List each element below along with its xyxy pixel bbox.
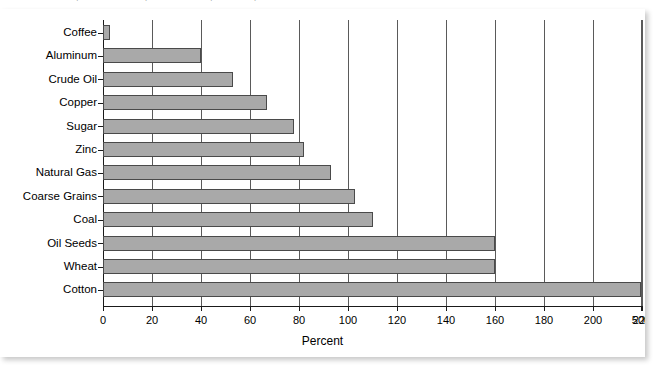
bar — [103, 259, 495, 274]
y-axis-category-label: Zinc — [75, 143, 97, 155]
y-axis-tick — [98, 79, 103, 80]
plot-area: CoffeeAluminumCrude OilCopperSugarZincNa… — [0, 9, 645, 357]
x-axis-tick — [544, 306, 545, 311]
x-axis-tick-label: 20 — [146, 314, 158, 326]
bar — [103, 189, 355, 204]
x-axis-tick-label: 200 — [584, 314, 602, 326]
bar — [103, 142, 304, 157]
y-axis-tick — [98, 196, 103, 197]
y-axis-category-label: Coffee — [63, 26, 97, 38]
y-axis-category-label: Coal — [73, 213, 97, 225]
figure-caption-strip: of which production located in particula… — [0, 0, 653, 9]
gridline — [544, 20, 545, 306]
y-axis-category-label: Crude Oil — [48, 73, 97, 85]
y-axis-category-label: Cotton — [63, 283, 97, 295]
x-axis-tick — [201, 306, 202, 311]
bar — [103, 282, 641, 297]
bar — [103, 72, 233, 87]
y-axis-category-label: Natural Gas — [36, 166, 97, 178]
y-axis-tick — [98, 150, 103, 151]
y-axis-tick — [98, 103, 103, 104]
x-axis-tick — [348, 306, 349, 311]
x-axis-tick-label: 500 — [632, 314, 645, 326]
x-axis-tick — [397, 306, 398, 311]
bar — [103, 95, 267, 110]
x-axis-tick — [446, 306, 447, 311]
x-axis-line — [103, 306, 643, 307]
y-axis-tick — [98, 243, 103, 244]
y-axis-category-label: Aluminum — [46, 49, 97, 61]
bar — [103, 25, 110, 40]
x-axis-tick — [250, 306, 251, 311]
y-axis-tick — [98, 220, 103, 221]
y-axis-category-label: Wheat — [64, 260, 97, 272]
x-axis-tick — [103, 306, 104, 311]
gridline — [642, 20, 643, 306]
bar — [103, 212, 373, 227]
x-axis-tick-label: 60 — [244, 314, 256, 326]
x-axis-tick-label: 180 — [535, 314, 553, 326]
gridline — [593, 20, 594, 306]
y-axis-category-label: Sugar — [66, 120, 97, 132]
y-axis-tick — [98, 56, 103, 57]
x-axis-tick-label: 80 — [293, 314, 305, 326]
y-axis-tick — [98, 33, 103, 34]
bar — [103, 48, 201, 63]
x-axis-tick-label: 0 — [100, 314, 106, 326]
bar-chart-panel: CoffeeAluminumCrude OilCopperSugarZincNa… — [0, 9, 645, 357]
x-axis-tick — [152, 306, 153, 311]
x-axis-tick-label: 120 — [388, 314, 406, 326]
x-axis-tick-label: 160 — [486, 314, 504, 326]
y-axis-category-label: Copper — [59, 96, 97, 108]
x-axis-tick-label: 100 — [339, 314, 357, 326]
y-axis-category-label: Oil Seeds — [47, 237, 97, 249]
gridline — [495, 20, 496, 306]
x-axis-tick — [593, 306, 594, 311]
bar — [103, 119, 294, 134]
y-axis-tick — [98, 290, 103, 291]
y-axis-tick — [98, 267, 103, 268]
bar — [103, 165, 331, 180]
x-axis-tick — [641, 306, 642, 311]
x-axis-tick — [495, 306, 496, 311]
y-axis-tick — [98, 173, 103, 174]
gridline — [641, 20, 642, 306]
x-axis-tick-label: 140 — [437, 314, 455, 326]
y-axis-category-label: Coarse Grains — [23, 190, 97, 202]
x-axis-tick — [642, 306, 643, 311]
x-axis-tick — [299, 306, 300, 311]
x-axis-tick-label: 40 — [195, 314, 207, 326]
x-axis-title: Percent — [0, 334, 645, 348]
y-axis-tick — [98, 126, 103, 127]
bar — [103, 236, 495, 251]
